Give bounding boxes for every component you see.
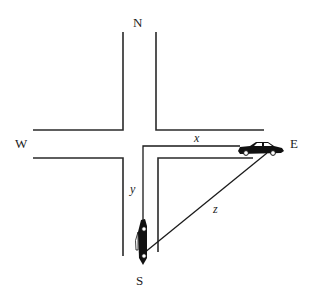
label-east: E	[290, 136, 298, 151]
label-south: S	[136, 273, 143, 288]
label-z: z	[212, 202, 218, 216]
road-edge-northwest	[33, 32, 123, 130]
label-y: y	[129, 182, 136, 196]
road-edge-southwest	[33, 158, 123, 256]
label-x: x	[193, 131, 200, 145]
car-south-icon	[135, 219, 147, 265]
distance-line-z	[144, 153, 267, 253]
road-edge-southeast	[158, 158, 253, 252]
road-edge-northeast	[156, 32, 264, 130]
road-edges	[33, 32, 264, 256]
intersection-diagram: N W E S x y z	[0, 0, 309, 300]
label-north: N	[133, 15, 143, 30]
label-west: W	[15, 136, 28, 151]
car-east-icon	[238, 142, 284, 155]
